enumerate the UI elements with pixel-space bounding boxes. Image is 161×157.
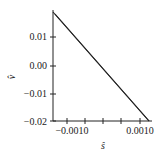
y-tick-label: 0.01 [30,31,48,42]
x-tick-label: 0.0010 [126,125,154,136]
y-tick-label: −0.01 [24,88,47,99]
data-series [53,12,149,121]
y-axis-label: v̂ [6,74,17,79]
chart: 0.01 0.00 −0.01 −0.02 −0.0010 0.0010 ŝ v… [0,0,161,157]
lower-branch-line [55,14,149,121]
y-tick-label: 0.00 [30,60,48,71]
y-tick-label: −0.02 [24,116,47,127]
x-tick-label: −0.0010 [55,125,88,136]
x-axis-label: ŝ [101,140,105,151]
